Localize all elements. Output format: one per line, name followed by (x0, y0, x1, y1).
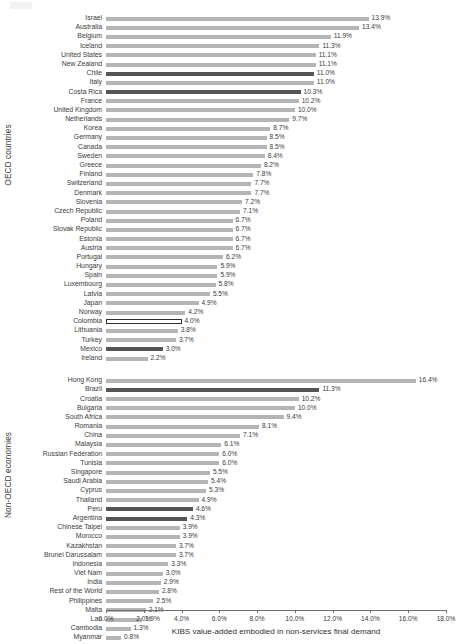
bar (106, 154, 265, 158)
bar-value-label: 7.7% (254, 178, 269, 187)
bar (106, 347, 163, 351)
bar-value-label: 7.8% (256, 169, 271, 178)
bar (106, 182, 251, 186)
bar-category-label: Switzerland (20, 178, 102, 187)
x-axis-tick-label: 6.0% (212, 615, 227, 622)
bar (106, 415, 284, 419)
bar-track: 5.5% (106, 290, 456, 299)
bar-value-label: 6.7% (236, 215, 251, 224)
bar-track: 4.2% (106, 308, 456, 317)
bar (106, 265, 217, 269)
bar-track: 4.9% (106, 299, 456, 308)
bar-category-label: Malaysia (20, 439, 102, 448)
bar-category-label: Slovak Republic (20, 224, 102, 233)
y-axis-group-label-non-oecd: Non-OECD economies (0, 470, 16, 480)
bar (106, 443, 221, 447)
bar-value-label: 8.7% (273, 123, 288, 132)
x-axis-tick-label: 12.0% (323, 615, 342, 622)
bar (106, 274, 217, 278)
bar-category-label: Korea (20, 123, 102, 132)
bar-value-label: 8.5% (270, 132, 285, 141)
bar-value-label: 8.2% (264, 160, 279, 169)
bar (106, 329, 178, 333)
bar (106, 136, 267, 140)
bar-track: 13.4% (106, 23, 456, 32)
bar-value-label: 3.3% (171, 559, 186, 568)
bar-category-label: Kazakhstan (20, 541, 102, 550)
bar-value-label: 3.9% (183, 531, 198, 540)
bar-track: 7.7% (106, 179, 456, 188)
bar (106, 572, 163, 576)
bar (106, 145, 267, 149)
bar-category-label: Myanmar (20, 632, 102, 641)
bar-value-label: 11.3% (322, 384, 340, 393)
bar-value-label: 8.5% (270, 142, 285, 151)
bar-category-label: Denmark (20, 188, 102, 197)
bar-track: 5.5% (106, 468, 456, 477)
bar-value-label: 6.7% (236, 234, 251, 243)
bar (106, 498, 199, 502)
bar (106, 553, 176, 557)
bar-category-label: Hungary (20, 261, 102, 270)
bar-category-label: Lithuania (20, 325, 102, 334)
bar-category-label: Cambodia (20, 623, 102, 632)
bar (106, 99, 299, 103)
bar-track: 5.4% (106, 477, 456, 486)
bar-track: 6.0% (106, 450, 456, 459)
bar-category-label: Australia (20, 22, 102, 31)
bar-category-label: Italy (20, 77, 102, 86)
bar-value-label: 5.5% (213, 467, 228, 476)
x-axis-tick-label: 10.0% (286, 615, 305, 622)
bar-category-label: Malta (20, 605, 102, 614)
bar (106, 200, 242, 204)
x-axis-tick (182, 610, 183, 613)
bar-track: 11.0% (106, 69, 456, 78)
bar-category-label: China (20, 430, 102, 439)
bar-category-label: Greece (20, 160, 102, 169)
bar-track: 11.1% (106, 51, 456, 60)
bar-track: 5.9% (106, 262, 456, 271)
x-axis: 0.0%2.0%4.0%6.0%8.0%10.0%12.0%14.0%16.0%… (106, 610, 446, 644)
bar-category-label: United Kingdom (20, 105, 102, 114)
bar-category-label: Finland (20, 169, 102, 178)
bar-track: 8.2% (106, 161, 456, 170)
bar (106, 72, 314, 76)
bar-track: 3.7% (106, 542, 456, 551)
bar-track: 4.6% (106, 505, 456, 514)
x-axis-tick (446, 610, 447, 613)
y-axis-group-label-oecd: OECD countries (0, 150, 16, 160)
bar (106, 292, 210, 296)
bar-track: 4.0% (106, 317, 456, 326)
bar-value-label: 6.2% (226, 252, 241, 261)
bar (106, 526, 180, 530)
bar-track: 6.7% (106, 225, 456, 234)
bar-category-label: Rest of the World (20, 586, 102, 595)
bar-category-label: Peru (20, 504, 102, 513)
bar-category-label: Netherlands (20, 114, 102, 123)
bar-track: 3.8% (106, 326, 456, 335)
bar-value-label: 7.1% (243, 206, 258, 215)
bar-track: 7.7% (106, 189, 456, 198)
bar-track: 11.3% (106, 385, 456, 394)
bar-track: 4.9% (106, 496, 456, 505)
bar-category-label: Croatia (20, 394, 102, 403)
bar-value-label: 10.3% (304, 87, 323, 96)
bar-track: 7.8% (106, 170, 456, 179)
x-axis-title: KIBS value-added embodied in non-service… (106, 627, 446, 636)
bar-category-label: Norway (20, 307, 102, 316)
bar-track: 11.0% (106, 78, 456, 87)
x-axis-tick (370, 610, 371, 613)
x-axis-tick (257, 610, 258, 613)
bar-category-label: Israel (20, 13, 102, 22)
bar-value-label: 4.9% (202, 495, 217, 504)
bar-category-label: Estonia (20, 234, 102, 243)
bar-category-label: Bulgaria (20, 403, 102, 412)
x-axis-tick-label: 14.0% (361, 615, 380, 622)
bar-category-label: Lao (20, 614, 102, 623)
bar-track: 11.1% (106, 60, 456, 69)
bar-value-label: 3.9% (183, 522, 198, 531)
bar-value-label: 10.2% (302, 96, 321, 105)
bar-value-label: 7.7% (254, 188, 269, 197)
bar (106, 90, 301, 94)
x-axis-tick-label: 16.0% (399, 615, 418, 622)
